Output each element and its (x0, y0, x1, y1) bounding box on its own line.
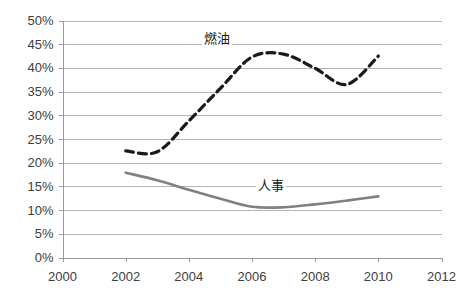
y-tick-label-20%: 20% (27, 155, 53, 170)
x-tick-label-2000: 2000 (48, 269, 77, 284)
series-line-燃油 (126, 53, 379, 154)
y-tick-label-5%: 5% (35, 226, 54, 241)
data-series-group (126, 53, 379, 208)
chart-canvas: 0%5%10%15%20%25%30%35%40%45%50% 20002002… (0, 0, 469, 303)
y-tick-label-40%: 40% (27, 60, 53, 75)
x-tick-label-2010: 2010 (364, 269, 393, 284)
y-tick-label-45%: 45% (27, 37, 53, 52)
x-tick-label-2006: 2006 (238, 269, 267, 284)
x-tick-label-2004: 2004 (174, 269, 203, 284)
line-chart: 0%5%10%15%20%25%30%35%40%45%50% 20002002… (0, 0, 469, 303)
series-line-人事 (126, 173, 379, 208)
y-axis-tick-labels: 0%5%10%15%20%25%30%35%40%45%50% (27, 13, 53, 265)
y-tick-label-30%: 30% (27, 108, 53, 123)
x-tick-label-2012: 2012 (427, 269, 456, 284)
x-tick-label-2002: 2002 (111, 269, 140, 284)
y-tick-label-0%: 0% (35, 250, 54, 265)
y-tick-label-35%: 35% (27, 84, 53, 99)
series-label-人事: 人事 (258, 178, 284, 193)
series-inline-labels: 燃油人事 (202, 31, 286, 192)
gridlines-group (63, 22, 442, 259)
y-tick-label-10%: 10% (27, 203, 53, 218)
x-axis-tick-labels: 2000200220042006200820102012 (48, 269, 456, 284)
y-tick-label-50%: 50% (27, 13, 53, 28)
y-tick-label-25%: 25% (27, 132, 53, 147)
y-tick-label-15%: 15% (27, 179, 53, 194)
series-label-燃油: 燃油 (204, 31, 230, 46)
x-tick-label-2008: 2008 (301, 269, 330, 284)
